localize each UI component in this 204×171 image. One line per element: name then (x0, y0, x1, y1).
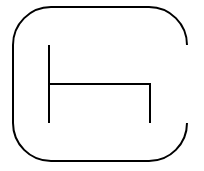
diagram-canvas (0, 0, 204, 171)
glyph-drawing (0, 0, 204, 171)
